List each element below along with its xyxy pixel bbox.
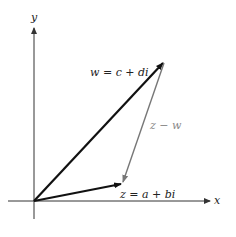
w-vector-label: w = c + di [90,67,149,78]
complex-plane-diagram: y x w = c + di z = a + bi z − w [0,0,236,237]
x-axis-label: x [214,195,220,206]
z-vector-label: z = a + bi [120,189,175,200]
y-axis-label: y [31,12,37,23]
diagram-graphics [0,0,236,237]
z-minus-w-label: z − w [150,120,181,131]
vector-w [34,63,163,201]
